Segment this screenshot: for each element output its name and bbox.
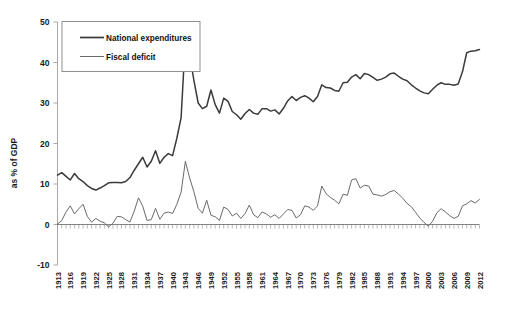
y-tick-label: 20 [40, 139, 50, 149]
x-tick-label: 1988 [373, 272, 382, 289]
x-tick-label: 2006 [450, 272, 459, 289]
x-tick-label: 1937 [156, 272, 165, 289]
x-tick-label: 2003 [437, 272, 446, 289]
x-tick-label: 1916 [66, 272, 75, 289]
y-axis-title: as % of GDP [9, 137, 19, 188]
y-tick-label: -10 [37, 260, 50, 270]
x-tick-label: 1913 [54, 272, 63, 289]
legend-label-national-expenditures: National expenditures [106, 34, 192, 43]
x-tick-label: 1976 [322, 272, 331, 289]
x-tick-label: 1961 [258, 271, 267, 289]
x-tick-label: 2009 [463, 272, 472, 289]
y-tick-label: 50 [40, 17, 50, 27]
chart-figure: -1001020304050 1913191619191922192519281… [0, 0, 511, 318]
x-tick-label: 1955 [233, 271, 242, 289]
legend-box [62, 22, 200, 72]
legend-label-fiscal-deficit: Fiscal deficit [106, 53, 156, 62]
line-chart: -1001020304050 1913191619191922192519281… [0, 0, 511, 318]
x-tick-label: 1928 [117, 272, 126, 289]
x-tick-label: 1934 [143, 271, 152, 289]
x-tick-label: 1946 [194, 272, 203, 289]
x-tick-label: 1949 [207, 272, 216, 289]
x-tick-label: 1952 [220, 272, 229, 289]
x-tick-label: 1973 [309, 272, 318, 289]
y-axis-title-text: as % of GDP [9, 137, 19, 188]
y-tick-label: 0 [45, 220, 50, 230]
x-tick-label: 1925 [105, 271, 114, 289]
x-tick-label: 1958 [245, 272, 254, 289]
x-tick-label: 1997 [412, 272, 421, 289]
y-tick-label: 10 [40, 179, 50, 189]
x-tick-label: 1919 [79, 272, 88, 289]
x-tick-label: 1970 [296, 272, 305, 289]
x-tick-label: 1979 [335, 272, 344, 289]
x-tick-label: 1931 [130, 271, 139, 289]
x-tick-label: 1985 [360, 271, 369, 289]
x-tick-label: 1940 [169, 272, 178, 289]
x-tick-label: 1967 [284, 272, 293, 289]
y-tick-label: 30 [40, 98, 50, 108]
x-tick-label: 1982 [348, 272, 357, 289]
x-tick-label: 1964 [271, 271, 280, 289]
x-tick-label: 2012 [476, 272, 485, 289]
x-tick-label: 1922 [92, 272, 101, 289]
x-tick-label: 1991 [386, 271, 395, 289]
y-tick-label: 40 [40, 58, 50, 68]
x-tick-label: 1943 [181, 272, 190, 289]
x-tick-label: 1994 [399, 271, 408, 289]
chart-legend: National expendituresFiscal deficit [62, 22, 200, 72]
x-tick-label: 2000 [424, 272, 433, 289]
